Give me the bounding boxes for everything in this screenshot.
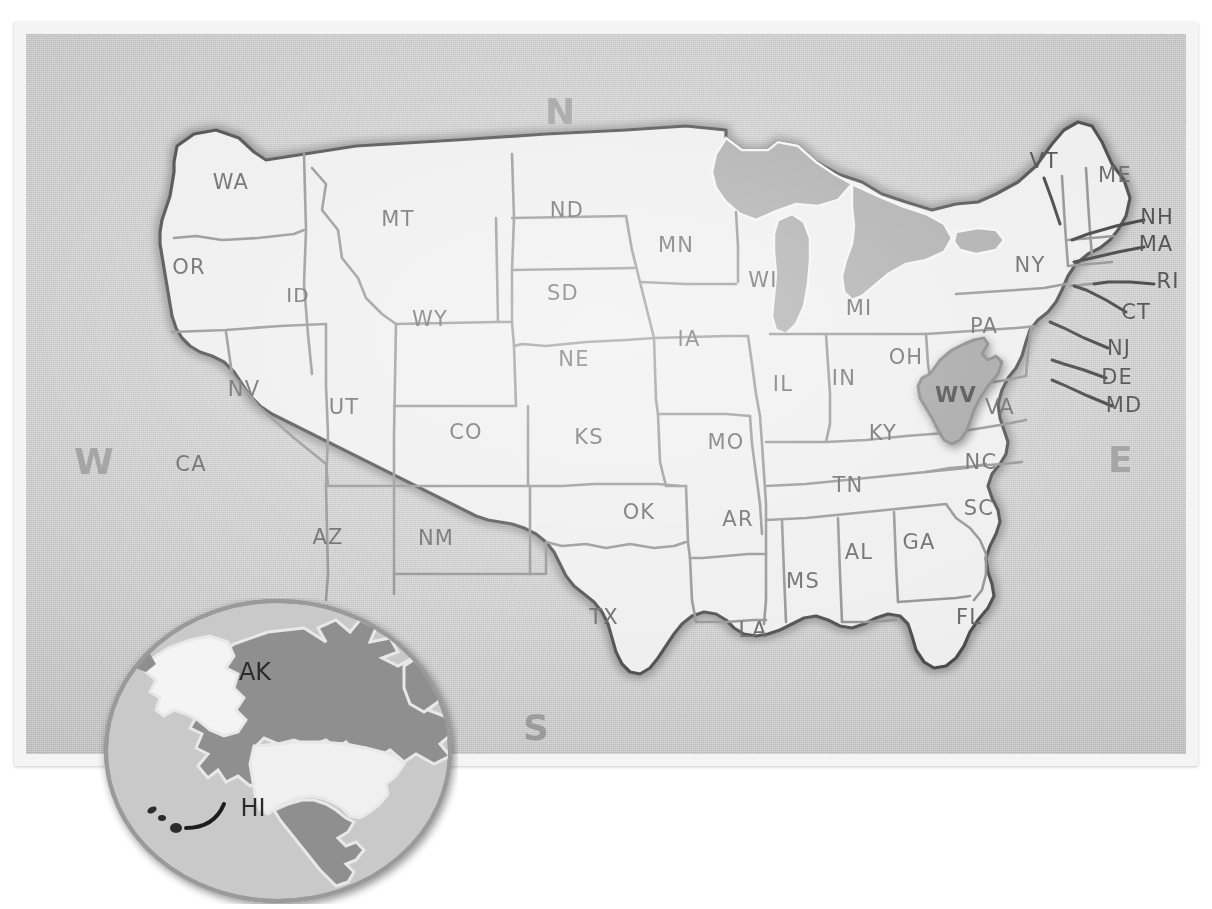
state-label-ut: UT	[329, 395, 360, 419]
state-label-sc: SC	[964, 496, 994, 520]
leader-de	[1052, 360, 1106, 378]
state-label-de: DE	[1101, 365, 1132, 389]
state-label-oh: OH	[889, 345, 924, 369]
state-label-ca: CA	[175, 452, 206, 476]
state-label-me: ME	[1098, 163, 1132, 187]
state-label-ia: IA	[678, 327, 701, 351]
state-label-sd: SD	[547, 281, 579, 305]
state-label-ks: KS	[574, 425, 604, 449]
state-label-mo: MO	[707, 430, 744, 454]
state-label-ri: RI	[1157, 269, 1180, 293]
state-label-vt: VT	[1029, 149, 1058, 173]
state-label-mn: MN	[658, 233, 694, 257]
leader-nj	[1050, 322, 1108, 348]
state-label-nv: NV	[228, 377, 260, 401]
state-label-ok: OK	[623, 500, 656, 524]
state-label-wa: WA	[213, 170, 249, 194]
state-label-fl: FL	[956, 605, 982, 629]
state-label-ga: GA	[902, 530, 935, 554]
lake-ontario	[954, 228, 1004, 254]
state-label-or: OR	[172, 255, 206, 279]
state-label-nm: NM	[418, 526, 454, 550]
inset-label-hi: HI	[240, 794, 265, 822]
inset-label-ak: AK	[239, 658, 272, 686]
state-label-ma: MA	[1139, 232, 1173, 256]
leader-ri	[1094, 282, 1154, 284]
state-label-ne: NE	[558, 347, 589, 371]
state-label-tx: TX	[588, 605, 619, 629]
state-label-nd: ND	[550, 198, 584, 222]
state-label-va: VA	[985, 395, 1015, 419]
state-label-ky: KY	[869, 421, 897, 445]
compass-east: E	[1108, 439, 1134, 480]
compass-west: W	[74, 441, 115, 482]
state-label-in: IN	[832, 366, 856, 390]
state-label-mt: MT	[381, 207, 414, 231]
state-label-nj: NJ	[1107, 336, 1131, 360]
state-label-ar: AR	[722, 507, 753, 531]
state-label-md: MD	[1106, 393, 1142, 417]
north-america-globe-inset: AKHI	[98, 598, 458, 904]
state-label-ny: NY	[1015, 253, 1046, 277]
state-label-wy: WY	[412, 307, 448, 331]
state-label-co: CO	[449, 420, 483, 444]
state-label-wv: WV	[935, 383, 977, 407]
state-label-mi: MI	[846, 296, 873, 320]
leader-ct	[1074, 286, 1126, 312]
state-label-nc: NC	[965, 450, 998, 474]
compass-north: N	[545, 91, 576, 132]
state-label-nh: NH	[1140, 205, 1174, 229]
state-label-la: LA	[739, 618, 768, 642]
state-label-id: ID	[286, 283, 310, 307]
state-label-wi: WI	[748, 268, 777, 292]
state-label-pa: PA	[970, 314, 998, 338]
state-label-ms: MS	[786, 569, 820, 593]
state-label-il: IL	[773, 372, 793, 396]
compass-south: S	[523, 707, 550, 748]
state-label-az: AZ	[312, 525, 343, 549]
state-label-ct: CT	[1121, 300, 1151, 324]
state-label-al: AL	[845, 540, 873, 564]
globe-inset-svg: AKHI	[98, 598, 458, 904]
state-label-tn: TN	[832, 473, 864, 497]
